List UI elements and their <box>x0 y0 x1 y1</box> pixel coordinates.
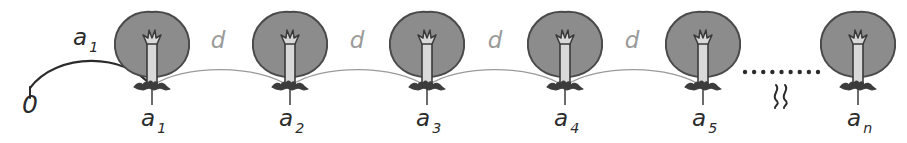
svg-text:d: d <box>625 27 640 53</box>
svg-text:a: a <box>847 105 861 131</box>
svg-text:a: a <box>692 105 706 131</box>
ellipsis-dot <box>816 70 820 74</box>
tree-a2 <box>253 12 327 105</box>
gap-label-d-2: d <box>350 27 365 53</box>
svg-text:3: 3 <box>432 120 441 136</box>
ellipsis-dot <box>807 70 811 74</box>
ellipsis-dot <box>761 70 765 74</box>
tree-a1 <box>115 12 189 105</box>
ellipsis-dot <box>770 70 774 74</box>
svg-text:1: 1 <box>157 120 166 136</box>
first-gap-label: a1 <box>73 24 98 55</box>
position-label-a3: a3 <box>416 105 441 136</box>
gap-label-d-1: d <box>211 27 226 53</box>
ellipsis-dots <box>743 70 820 74</box>
tree-an <box>821 12 895 105</box>
svg-text:d: d <box>488 27 503 53</box>
trees-group <box>115 12 895 105</box>
position-label-a2: a2 <box>279 105 304 136</box>
svg-text:a: a <box>416 105 430 131</box>
svg-text:1: 1 <box>89 39 98 55</box>
ellipsis-dot <box>788 70 792 74</box>
ellipsis-dot <box>779 70 783 74</box>
diagram-canvas: .canopy{fill:#8c8c8c;stroke:#4a4a4a;stro… <box>0 0 907 143</box>
tree-number-line-figure: .canopy{fill:#8c8c8c;stroke:#4a4a4a;stro… <box>0 0 907 143</box>
svg-text:0: 0 <box>22 90 38 119</box>
position-label-a4: a4 <box>554 105 579 136</box>
origin-label: 0 <box>22 90 38 119</box>
tree-a4 <box>528 12 602 105</box>
axis-break-squiggle <box>775 85 787 108</box>
position-label-a5: a5 <box>692 105 717 136</box>
tree-a3 <box>390 12 464 105</box>
svg-text:a: a <box>141 105 155 131</box>
ellipsis-dot <box>798 70 802 74</box>
svg-text:a: a <box>554 105 568 131</box>
svg-text:2: 2 <box>295 120 304 136</box>
svg-text:a: a <box>279 105 293 131</box>
position-label-an: an <box>847 105 872 136</box>
svg-text:4: 4 <box>570 120 579 136</box>
ellipsis-dot <box>752 70 756 74</box>
svg-text:a: a <box>73 24 87 50</box>
squiggle-stroke <box>775 85 778 108</box>
svg-text:n: n <box>863 120 872 136</box>
svg-text:d: d <box>211 27 226 53</box>
gap-label-d-4: d <box>625 27 640 53</box>
tree-a5 <box>666 12 740 105</box>
gap-label-d-3: d <box>488 27 503 53</box>
ellipsis-dot <box>743 70 747 74</box>
squiggle-stroke <box>784 85 787 108</box>
svg-text:d: d <box>350 27 365 53</box>
position-label-a1: a1 <box>141 105 166 136</box>
svg-text:5: 5 <box>708 120 717 136</box>
